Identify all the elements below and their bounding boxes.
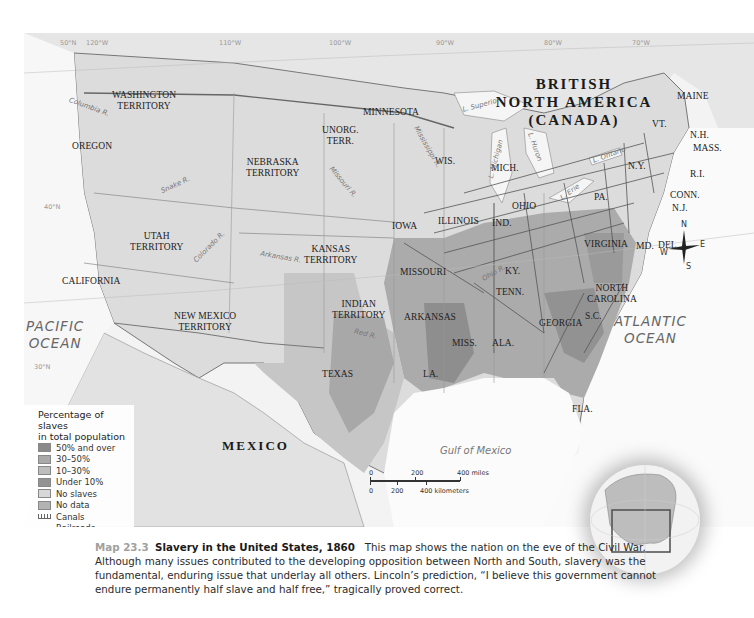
swatch-no-slaves	[38, 489, 51, 498]
label-arkansas: ARKANSAS	[404, 312, 456, 323]
label-mass: MASS.	[693, 143, 722, 154]
label-new-mexico-territory: NEW MEXICOTERRITORY	[174, 311, 236, 333]
legend-item: No data	[38, 500, 134, 512]
label-md: MD.	[636, 241, 654, 252]
legend-item: Railroads	[38, 523, 134, 528]
legend-item: 10–30%	[38, 465, 134, 477]
grid-label-30n: 30°N	[34, 363, 50, 371]
grid-label-80w: 80°W	[544, 39, 562, 47]
compass-w: W	[660, 248, 668, 257]
grid-label-90w: 90°W	[436, 39, 454, 47]
swatch-no-data	[38, 501, 51, 510]
label-nebraska-territory: NEBRASKATERRITORY	[246, 157, 300, 179]
slavery-map-1860: 50°N 120°W 110°W 100°W 90°W 80°W 70°W 40…	[24, 33, 754, 527]
label-washington-territory: WASHINGTONTERRITORY	[112, 90, 176, 112]
label-ind: IND.	[492, 218, 512, 229]
swatch-50-and-over	[38, 443, 51, 452]
label-vt: VT.	[652, 119, 667, 130]
compass-s: S	[686, 262, 691, 271]
scale-bar: 0 200 400 miles 0 200 400 kilometers	[369, 469, 499, 509]
map-number: Map 23.3	[95, 541, 149, 553]
label-indian-territory: INDIANTERRITORY	[332, 299, 386, 321]
label-iowa: IOWA	[392, 221, 417, 232]
swatch-10-30	[38, 466, 51, 475]
label-ri: R.I.	[690, 169, 705, 180]
label-missouri: MISSOURI	[400, 267, 446, 278]
label-utah-territory: UTAHTERRITORY	[130, 231, 184, 253]
label-unorg-terr: UNORG.TERR.	[322, 125, 359, 147]
swatch-under-10	[38, 478, 51, 487]
grid-label-110w: 110°W	[219, 39, 241, 47]
label-ny: N.Y.	[628, 161, 646, 172]
label-texas: TEXAS	[322, 369, 353, 380]
label-miss: MISS.	[452, 338, 477, 349]
swatch-30-50	[38, 455, 51, 464]
label-illinois: ILLINOIS	[438, 216, 479, 227]
label-mexico: MEXICO	[222, 440, 289, 451]
label-tenn: TENN.	[496, 287, 524, 298]
compass-e: E	[700, 240, 705, 249]
grid-label-50n: 50°N	[60, 39, 76, 47]
legend-item: Under 10%	[38, 477, 134, 489]
map-title: Slavery in the United States, 1860	[155, 541, 355, 553]
label-sc: S.C.	[585, 311, 602, 322]
map-caption: Map 23.3 Slavery in the United States, 1…	[95, 540, 665, 596]
grid-label-40n: 40°N	[44, 203, 60, 211]
compass-n: N	[681, 220, 687, 229]
label-nh: N.H.	[690, 130, 709, 141]
label-minnesota: MINNESOTA	[363, 107, 419, 118]
label-kansas-territory: KANSASTERRITORY	[304, 244, 358, 266]
legend-item: Canals	[38, 511, 134, 523]
label-fla: FLA.	[572, 404, 593, 415]
label-pacific-ocean: PACIFIC OCEAN	[26, 318, 84, 352]
label-british-north-america: BRITISH NORTH AMERICA (CANADA)	[484, 75, 664, 129]
label-gulf-of-mexico: Gulf of Mexico	[440, 445, 511, 456]
legend-item: No slaves	[38, 488, 134, 500]
legend-item: 50% and over	[38, 442, 134, 454]
label-la: LA.	[423, 369, 438, 380]
label-virginia: VIRGINIA	[584, 239, 628, 250]
grid-label-100w: 100°W	[329, 39, 351, 47]
map-legend: Percentage of slaves in total population…	[24, 405, 134, 527]
label-nj: N.J.	[672, 203, 688, 214]
label-maine: MAINE	[677, 91, 709, 102]
label-ky: KY.	[505, 266, 520, 277]
legend-item: 30–50%	[38, 454, 134, 466]
label-pa: PA.	[594, 192, 608, 203]
label-ohio: OHIO	[512, 201, 536, 212]
compass-rose-icon: N S E W	[664, 224, 704, 270]
label-atlantic-ocean: ATLANTIC OCEAN	[614, 313, 687, 347]
legend-title: Percentage of slaves in total population	[38, 409, 134, 442]
label-ala: ALA.	[492, 338, 514, 349]
label-north-carolina: NORTHCAROLINA	[587, 283, 637, 305]
canal-symbol-icon	[38, 514, 51, 519]
grid-label-70w: 70°W	[632, 39, 650, 47]
grid-label-120w: 120°W	[86, 39, 108, 47]
label-oregon: OREGON	[72, 141, 112, 152]
label-conn: CONN.	[670, 190, 700, 201]
label-georgia: GEORGIA	[539, 318, 582, 329]
label-california: CALIFORNIA	[62, 276, 121, 287]
